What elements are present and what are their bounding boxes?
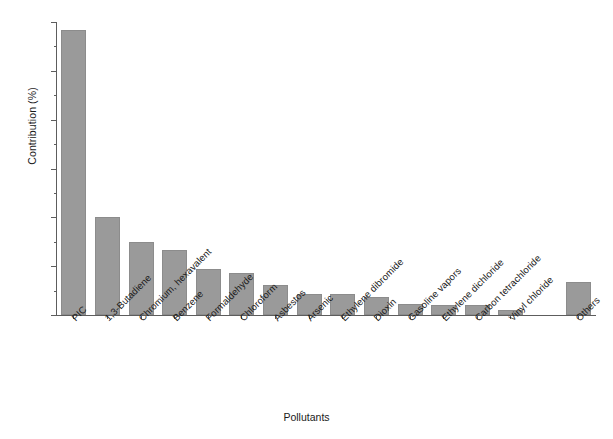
bar-series bbox=[57, 22, 595, 315]
plot-area: 061218243036 bbox=[57, 22, 595, 315]
x-axis-title: Pollutants bbox=[0, 411, 613, 423]
y-axis-title: Contribution (%) bbox=[26, 56, 38, 196]
bar-chart-figure: Contribution (%) 061218243036 PIC1,3-But… bbox=[0, 0, 613, 439]
x-axis-tick-labels: PIC1,3-ButadieneChromium, hexavalentBenz… bbox=[57, 316, 595, 416]
bar bbox=[61, 30, 86, 315]
